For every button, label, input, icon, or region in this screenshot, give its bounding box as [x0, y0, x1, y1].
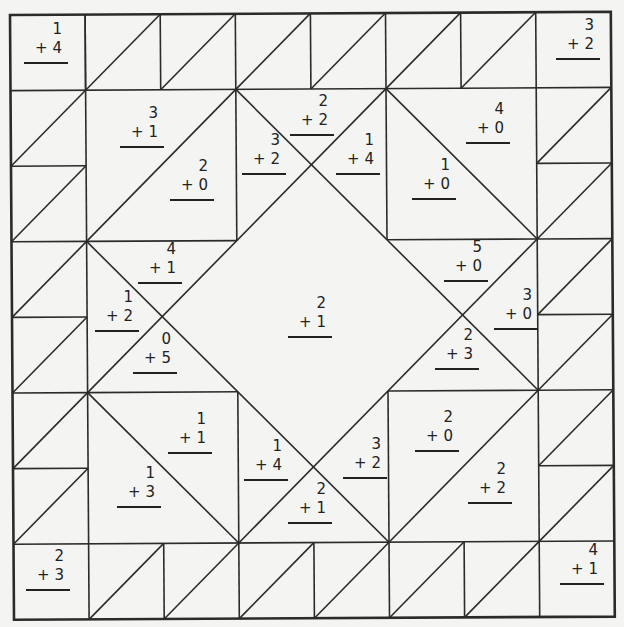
addend-bottom: + 1 [560, 560, 604, 585]
addend-bottom: + 2 [242, 150, 286, 175]
addend-bottom: + 4 [24, 39, 68, 64]
addend-top: 1 [412, 156, 456, 175]
addend-top: 2 [435, 326, 479, 345]
addend-top: 0 [133, 330, 177, 349]
addend-bottom: + 5 [133, 349, 177, 374]
top-border-row [85, 12, 536, 90]
addition-problem-bottom-x-right: 3+ 2 [343, 435, 387, 479]
addend-bottom: + 1 [120, 123, 164, 148]
addend-top: 3 [242, 131, 286, 150]
addend-bottom: + 2 [343, 454, 387, 479]
addend-top: 2 [290, 92, 334, 111]
addend-bottom: + 1 [288, 313, 332, 338]
addend-bottom: + 0 [415, 427, 459, 452]
addition-problem-left-x-left: 1+ 2 [95, 288, 139, 332]
addition-problem-top-x-right: 1+ 4 [336, 131, 380, 175]
addition-problem-corner-top-right: 3+ 2 [556, 16, 600, 60]
addend-top: 3 [343, 435, 387, 454]
addition-problem-br-block-lower: 2+ 2 [468, 460, 512, 504]
addition-problem-right-x-bottom: 2+ 3 [435, 326, 479, 370]
addend-bottom: + 2 [556, 35, 600, 60]
addend-bottom: + 0 [466, 119, 510, 144]
addend-top: 1 [168, 410, 212, 429]
addition-problem-tr-block-upper: 4+ 0 [466, 100, 510, 144]
addend-bottom: + 1 [168, 429, 212, 454]
addition-problem-bottom-x-bottom: 2+ 1 [288, 480, 332, 524]
addition-problem-bottom-x-left: 1+ 4 [244, 437, 288, 481]
addition-problem-tl-block-upper: 3+ 1 [120, 104, 164, 148]
addend-top: 4 [560, 541, 604, 560]
left-border-column [11, 90, 89, 544]
addition-problem-bl-block-upper: 1+ 1 [168, 410, 212, 454]
addend-top: 3 [556, 16, 600, 35]
addition-problem-corner-bottom-left: 2+ 3 [26, 547, 70, 591]
addition-problem-corner-bottom-right: 4+ 1 [560, 541, 604, 585]
addend-bottom: + 3 [435, 345, 479, 370]
addend-top: 1 [244, 437, 288, 456]
addend-top: 2 [288, 480, 332, 499]
addend-top: 2 [468, 460, 512, 479]
addend-bottom: + 2 [468, 479, 512, 504]
addition-problem-right-x-top: 5+ 0 [444, 238, 488, 282]
addend-top: 4 [138, 240, 182, 259]
addend-top: 1 [117, 464, 161, 483]
addend-bottom: + 0 [412, 175, 456, 200]
addition-problem-right-x-right: 3+ 0 [494, 286, 538, 330]
addend-bottom: + 2 [290, 111, 334, 136]
addition-problem-tl-block-lower: 2+ 0 [170, 157, 214, 201]
addend-bottom: + 3 [26, 566, 70, 591]
addend-bottom: + 1 [138, 259, 182, 284]
addition-problem-left-x-top: 4+ 1 [138, 240, 182, 284]
addend-top: 3 [120, 104, 164, 123]
addition-problem-br-block-upper: 2+ 0 [415, 408, 459, 452]
bottom-border-row [89, 541, 540, 619]
addend-top: 3 [494, 286, 538, 305]
addition-problem-center-diamond: 2+ 1 [288, 294, 332, 338]
addend-top: 2 [415, 408, 459, 427]
right-border-column [536, 87, 614, 541]
addend-bottom: + 0 [170, 176, 214, 201]
addend-bottom: + 0 [444, 257, 488, 282]
addend-bottom: + 1 [288, 499, 332, 524]
addend-bottom: + 2 [95, 307, 139, 332]
addend-top: 2 [288, 294, 332, 313]
addend-top: 2 [26, 547, 70, 566]
addition-problem-tr-block-lower: 1+ 0 [412, 156, 456, 200]
addition-problem-bl-block-lower: 1+ 3 [117, 464, 161, 508]
addend-bottom: + 4 [244, 456, 288, 481]
addend-top: 1 [24, 20, 68, 39]
addition-problem-top-x-top: 2+ 2 [290, 92, 334, 136]
addend-top: 2 [170, 157, 214, 176]
addend-bottom: + 0 [494, 305, 538, 330]
addition-problem-top-x-left: 3+ 2 [242, 131, 286, 175]
addend-bottom: + 3 [117, 483, 161, 508]
addition-problem-left-x-bottom: 0+ 5 [133, 330, 177, 374]
addition-problem-corner-top-left: 1+ 4 [24, 20, 68, 64]
addend-top: 5 [444, 238, 488, 257]
addend-top: 4 [466, 100, 510, 119]
addend-top: 1 [95, 288, 139, 307]
addend-bottom: + 4 [336, 150, 380, 175]
addend-top: 1 [336, 131, 380, 150]
